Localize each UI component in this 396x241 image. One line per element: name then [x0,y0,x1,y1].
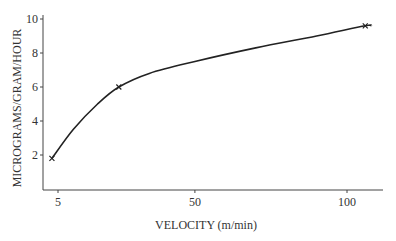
y-tick-label: 6 [32,80,38,94]
data-curve [52,25,371,158]
y-ticks: 246810 [26,12,43,162]
x-marker-icon [49,156,54,161]
data-markers [49,23,367,161]
line-chart: 246810 550100 VELOCITY (m/min) MICROGRAM… [0,0,396,241]
x-axis-title: VELOCITY (m/min) [155,218,257,232]
y-tick-label: 4 [32,114,38,128]
x-marker-icon [116,85,121,90]
y-tick-label: 8 [32,46,38,60]
y-axis-title: MICROGRAMS/GRAM/HOUR [10,29,24,188]
x-tick-label: 100 [338,195,356,209]
y-tick-label: 10 [26,12,38,26]
y-tick-label: 2 [32,148,38,162]
x-tick-label: 5 [55,195,61,209]
x-ticks: 550100 [55,190,356,209]
x-tick-label: 50 [189,195,201,209]
